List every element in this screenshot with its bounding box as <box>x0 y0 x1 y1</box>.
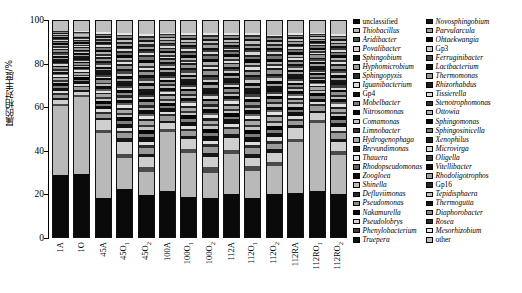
bar-group[interactable] <box>309 20 326 238</box>
bar-group[interactable] <box>287 20 304 238</box>
bar-group[interactable] <box>95 20 112 238</box>
legend-item[interactable]: Nakamurella <box>353 208 422 217</box>
bar-segment <box>181 197 196 237</box>
bar-segment <box>267 194 282 237</box>
legend-item[interactable]: Rosea <box>426 217 491 226</box>
legend-item[interactable]: Ohtaekwangia <box>426 35 491 44</box>
stacked-bar[interactable] <box>180 20 197 238</box>
bar-group[interactable] <box>73 20 90 238</box>
legend-item[interactable]: Parvularcula <box>426 26 491 35</box>
stacked-bar[interactable] <box>202 20 219 238</box>
stacked-bar[interactable] <box>287 20 304 238</box>
x-tick: 100A <box>159 240 176 290</box>
bar-segment <box>117 142 132 154</box>
stacked-bar[interactable] <box>159 20 176 238</box>
legend-item[interactable]: Comamonas <box>353 117 422 126</box>
legend-item[interactable]: Hydrogenophaga <box>353 135 422 144</box>
bar-segment <box>181 153 196 196</box>
legend-label: Zoogloea <box>363 172 391 180</box>
bar-segment <box>267 153 282 162</box>
x-tick-label: 112RO2 <box>332 242 344 270</box>
legend-item[interactable]: Sphingomonas <box>426 117 491 126</box>
bar-segment <box>245 158 260 166</box>
bar-group[interactable] <box>116 20 133 238</box>
legend-item[interactable]: Sphingosinicella <box>426 126 491 135</box>
legend-swatch-icon <box>426 64 433 70</box>
x-tick-label: 45A <box>98 242 108 257</box>
legend-item[interactable]: Diaphorobacter <box>426 208 491 217</box>
legend-swatch-icon <box>426 201 433 207</box>
stacked-bar[interactable] <box>95 20 112 238</box>
bar-segment <box>117 20 132 33</box>
legend-item[interactable]: Pseudomonas <box>353 199 422 208</box>
legend-swatch-icon <box>353 64 360 70</box>
bar-group[interactable] <box>223 20 240 238</box>
legend-column-1: unclassifiedThiobacillusAridibacterPoval… <box>353 17 422 262</box>
bar-group[interactable] <box>244 20 261 238</box>
legend-item[interactable]: Limnobacter <box>353 126 422 135</box>
legend-item[interactable]: Povalibacter <box>353 44 422 53</box>
legend-label: other <box>436 236 451 244</box>
legend-item[interactable]: other <box>426 235 491 244</box>
bar-segment <box>245 20 260 33</box>
stacked-bar[interactable] <box>138 20 155 238</box>
bar-group[interactable] <box>52 20 69 238</box>
legend-item[interactable]: Xenophilus <box>426 135 491 144</box>
x-tick: 45O1 <box>116 240 133 290</box>
bar-group[interactable] <box>180 20 197 238</box>
stacked-bar[interactable] <box>52 20 69 238</box>
stacked-bar[interactable] <box>309 20 326 238</box>
x-tick: 1O <box>73 240 90 290</box>
legend-label: Ferruginibacter <box>436 54 484 62</box>
legend-label: Parvularcula <box>436 27 475 35</box>
legend-item[interactable]: Phenylobacterium <box>353 226 422 235</box>
legend-swatch-icon <box>353 46 360 52</box>
bar-segment <box>74 174 89 237</box>
legend-swatch-icon <box>353 101 360 107</box>
legend-label: Comamonas <box>363 118 400 126</box>
stacked-bar[interactable] <box>266 20 283 238</box>
stacked-bar[interactable] <box>223 20 240 238</box>
legend-label: Aridibacter <box>363 36 397 44</box>
plot-area <box>52 20 347 238</box>
legend-swatch-icon <box>353 146 360 152</box>
legend-item[interactable]: Mesorhizobium <box>426 226 491 235</box>
legend-item[interactable]: Truepera <box>353 235 422 244</box>
bar-segment <box>224 194 239 237</box>
bar-group[interactable] <box>330 20 347 238</box>
legend-item[interactable]: Pseudolobrys <box>353 217 422 226</box>
legend-item[interactable]: Novosphingobium <box>426 17 491 26</box>
legend-item[interactable]: Nitrosomonas <box>353 108 422 117</box>
legend-swatch-icon <box>353 110 360 116</box>
bar-segment <box>203 198 218 237</box>
x-tick: 45O2 <box>138 240 155 290</box>
x-tick: 112O1 <box>244 240 261 290</box>
legend-item[interactable]: Gp3 <box>426 44 491 53</box>
legend-item[interactable]: Aridibacter <box>353 35 422 44</box>
legend-swatch-icon <box>426 28 433 34</box>
bar-group[interactable] <box>159 20 176 238</box>
legend-swatch-icon <box>426 155 433 161</box>
bar-group[interactable] <box>202 20 219 238</box>
bar-segment <box>224 138 239 151</box>
stacked-bar[interactable] <box>330 20 347 238</box>
legend-swatch-icon <box>426 37 433 43</box>
x-tick-label: 100O2 <box>204 242 216 264</box>
legend-item[interactable]: unclassified <box>353 17 422 26</box>
legend-item[interactable]: Thermogutta <box>426 199 491 208</box>
legend-label: Thermogutta <box>436 199 474 207</box>
stacked-bar[interactable] <box>116 20 133 238</box>
x-tick-label: 1A <box>55 242 65 252</box>
y-tick-mark <box>44 20 48 21</box>
bar-segment <box>139 195 154 237</box>
bar-group[interactable] <box>138 20 155 238</box>
legend-item[interactable]: Thiobacillus <box>353 26 422 35</box>
bar-segment <box>331 155 346 194</box>
legend-item[interactable]: Ottowia <box>426 108 491 117</box>
stacked-bar[interactable] <box>244 20 261 238</box>
x-tick-label: 112A <box>226 242 236 261</box>
bar-segment <box>310 20 325 33</box>
bar-group[interactable] <box>266 20 283 238</box>
bar-segment <box>139 157 154 167</box>
stacked-bar[interactable] <box>73 20 90 238</box>
